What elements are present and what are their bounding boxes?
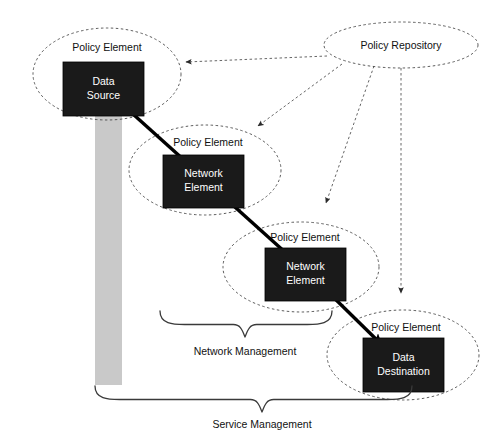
policy-element-label-network-element-2: Policy Element bbox=[270, 231, 340, 243]
data-flow-group bbox=[124, 106, 380, 343]
node-label-data-destination-line1: Data bbox=[392, 351, 414, 363]
diagram-canvas: Policy Repository Policy Element Policy … bbox=[0, 0, 504, 437]
node-label-network-element-2-line1: Network bbox=[286, 260, 325, 272]
network-management-label: Network Management bbox=[194, 345, 297, 357]
network-management-brace bbox=[160, 311, 332, 337]
node-label-network-element-1-line1: Network bbox=[184, 167, 223, 179]
service-scope-bar bbox=[95, 115, 122, 385]
policy-element-label-data-source: Policy Element bbox=[72, 41, 142, 53]
policy-link-repository-to-network-element-1 bbox=[258, 64, 342, 126]
node-label-data-source-line2: Source bbox=[87, 89, 120, 101]
node-label-data-source-line1: Data bbox=[92, 75, 114, 87]
architecture-diagram: Policy Repository Policy Element Policy … bbox=[0, 0, 504, 437]
policy-link-repository-to-data-source bbox=[186, 56, 327, 62]
node-label-network-element-2-line2: Element bbox=[286, 274, 325, 286]
node-label-network-element-1-line2: Element bbox=[184, 181, 223, 193]
policy-link-repository-to-network-element-2 bbox=[326, 66, 374, 203]
policy-element-label-data-destination: Policy Element bbox=[371, 321, 441, 333]
policy-repository-label: Policy Repository bbox=[360, 39, 442, 51]
policy-element-label-network-element-1: Policy Element bbox=[173, 136, 243, 148]
node-label-data-destination-line2: Destination bbox=[377, 365, 430, 377]
service-management-label: Service Management bbox=[212, 418, 311, 430]
